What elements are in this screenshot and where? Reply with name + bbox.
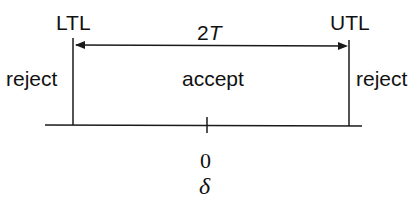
arrow-head-left bbox=[75, 41, 85, 49]
width-arrow-line bbox=[76, 45, 346, 46]
delta-axis-label: δ bbox=[199, 174, 210, 198]
origin-label: 0 bbox=[200, 150, 211, 172]
axis-line bbox=[45, 125, 362, 126]
width-coefficient: 2 bbox=[197, 21, 209, 44]
ltl-label: LTL bbox=[56, 12, 91, 33]
accept-label: accept bbox=[182, 68, 244, 89]
arrow-head-right bbox=[338, 42, 348, 50]
left-reject-label: reject bbox=[6, 68, 57, 89]
right-reject-label: reject bbox=[356, 68, 407, 89]
width-label: 2T bbox=[197, 22, 222, 43]
utl-label: UTL bbox=[330, 12, 370, 33]
width-variable: T bbox=[209, 21, 222, 44]
